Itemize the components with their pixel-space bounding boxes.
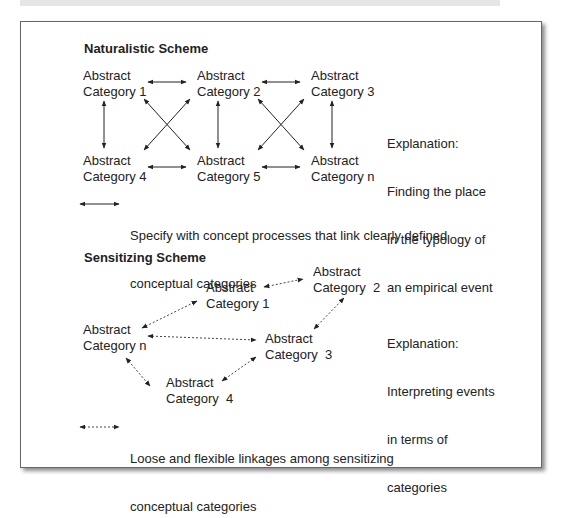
sen-legend: Loose and flexible linkages among sensit… bbox=[130, 419, 394, 518]
nat-node-1: AbstractCategory 1 bbox=[83, 68, 147, 100]
sen-node-4: AbstractCategory 4 bbox=[166, 375, 233, 407]
sen-node-3: AbstractCategory 3 bbox=[265, 331, 332, 363]
nat-node-3: AbstractCategory 3 bbox=[311, 68, 375, 100]
nat-node-5: AbstractCategory 5 bbox=[197, 153, 261, 185]
sen-node-2: AbstractCategory 2 bbox=[313, 264, 380, 296]
nat-node-2: AbstractCategory 2 bbox=[197, 68, 261, 100]
sen-node-n: AbstractCategory n bbox=[83, 322, 147, 354]
nat-node-4: AbstractCategory 4 bbox=[83, 153, 147, 185]
nat-node-n: AbstractCategory n bbox=[311, 153, 375, 185]
sen-node-1: AbstractCategory 1 bbox=[206, 280, 270, 312]
sen-explanation: Explanation: Interpreting events in term… bbox=[387, 304, 495, 512]
sensitizing-title: Sensitizing Scheme bbox=[84, 250, 206, 265]
naturalistic-title: Naturalistic Scheme bbox=[84, 41, 208, 56]
